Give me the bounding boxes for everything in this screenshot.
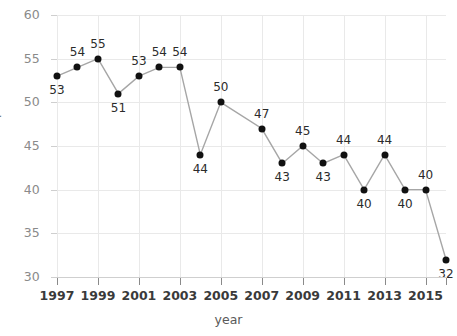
data-point-label-2003: 54 bbox=[172, 45, 187, 59]
data-point-label-2011: 44 bbox=[336, 133, 351, 147]
data-point-1999[interactable] bbox=[94, 55, 101, 62]
y-tick-label-50: 50 bbox=[10, 94, 40, 109]
x-tick-mark-2001 bbox=[139, 278, 140, 285]
data-point-2010[interactable] bbox=[320, 160, 327, 167]
data-point-label-1998: 54 bbox=[70, 45, 85, 59]
x-tick-mark-2007 bbox=[262, 278, 263, 285]
x-tick-mark-2013 bbox=[385, 278, 386, 285]
data-point-label-2013: 44 bbox=[377, 133, 392, 147]
data-point-label-2007: 47 bbox=[254, 107, 269, 121]
x-tick-label-2005: 2005 bbox=[203, 288, 238, 303]
y-tick-label-60: 60 bbox=[10, 7, 40, 22]
data-point-label-2001: 53 bbox=[131, 54, 146, 68]
x-tick-mark-2011 bbox=[344, 278, 345, 285]
data-point-2004[interactable] bbox=[197, 151, 204, 158]
x-tick-label-2001: 2001 bbox=[121, 288, 156, 303]
x-tick-label-2015: 2015 bbox=[408, 288, 443, 303]
x-tick-label-2013: 2013 bbox=[367, 288, 402, 303]
data-point-2016[interactable] bbox=[443, 256, 450, 263]
y-tick-mark-50 bbox=[51, 102, 57, 103]
line-chart: 53545551535454445047434543444044404032 3… bbox=[0, 0, 457, 336]
x-tick-mark-1997 bbox=[57, 278, 58, 285]
x-tick-mark-2016 bbox=[446, 278, 447, 285]
data-point-2002[interactable] bbox=[156, 64, 163, 71]
data-point-2005[interactable] bbox=[217, 99, 224, 106]
data-point-label-1997: 53 bbox=[49, 83, 64, 97]
plot-area: 53545551535454445047434543444044404032 bbox=[57, 15, 446, 277]
data-point-label-2015: 40 bbox=[418, 168, 433, 182]
x-tick-label-2011: 2011 bbox=[326, 288, 361, 303]
x-axis-title: year bbox=[0, 312, 457, 327]
y-tick-label-45: 45 bbox=[10, 138, 40, 153]
data-point-label-2004: 44 bbox=[193, 162, 208, 176]
x-tick-label-2007: 2007 bbox=[244, 288, 279, 303]
data-point-2008[interactable] bbox=[279, 160, 286, 167]
y-tick-label-40: 40 bbox=[10, 182, 40, 197]
y-tick-mark-45 bbox=[51, 146, 57, 147]
data-point-2011[interactable] bbox=[340, 151, 347, 158]
data-point-label-2014: 40 bbox=[397, 197, 412, 211]
x-tick-mark-2009 bbox=[303, 278, 304, 285]
data-point-label-2005: 50 bbox=[213, 80, 228, 94]
data-point-2003[interactable] bbox=[176, 64, 183, 71]
x-tick-mark-2003 bbox=[180, 278, 181, 285]
data-point-label-2009: 45 bbox=[295, 124, 310, 138]
x-tick-mark-1999 bbox=[98, 278, 99, 285]
data-point-2009[interactable] bbox=[299, 143, 306, 150]
x-tick-label-1999: 1999 bbox=[81, 288, 116, 303]
data-point-label-2002: 54 bbox=[152, 45, 167, 59]
data-point-2012[interactable] bbox=[361, 186, 368, 193]
data-point-1997[interactable] bbox=[54, 73, 61, 80]
data-point-2000[interactable] bbox=[115, 90, 122, 97]
data-point-2014[interactable] bbox=[402, 186, 409, 193]
x-tick-label-2003: 2003 bbox=[162, 288, 197, 303]
data-point-1998[interactable] bbox=[74, 64, 81, 71]
x-axis-line bbox=[57, 277, 446, 278]
y-tick-label-35: 35 bbox=[10, 225, 40, 240]
data-point-label-2012: 40 bbox=[356, 197, 371, 211]
y-tick-mark-55 bbox=[51, 59, 57, 60]
data-point-2015[interactable] bbox=[422, 186, 429, 193]
y-tick-label-30: 30 bbox=[10, 269, 40, 284]
data-point-label-2010: 43 bbox=[316, 170, 331, 184]
data-point-2013[interactable] bbox=[381, 151, 388, 158]
y-tick-mark-60 bbox=[51, 15, 57, 16]
y-tick-mark-35 bbox=[51, 233, 57, 234]
x-tick-mark-2005 bbox=[221, 278, 222, 285]
y-tick-mark-40 bbox=[51, 190, 57, 191]
x-tick-label-1997: 1997 bbox=[40, 288, 75, 303]
x-tick-label-2009: 2009 bbox=[285, 288, 320, 303]
data-point-label-2008: 43 bbox=[275, 170, 290, 184]
data-point-label-1999: 55 bbox=[90, 37, 105, 51]
x-tick-mark-2015 bbox=[426, 278, 427, 285]
data-point-2001[interactable] bbox=[135, 73, 142, 80]
data-point-2007[interactable] bbox=[258, 125, 265, 132]
y-tick-label-55: 55 bbox=[10, 51, 40, 66]
data-point-label-2000: 51 bbox=[111, 101, 126, 115]
y-axis-title: percent bbox=[0, 70, 1, 118]
